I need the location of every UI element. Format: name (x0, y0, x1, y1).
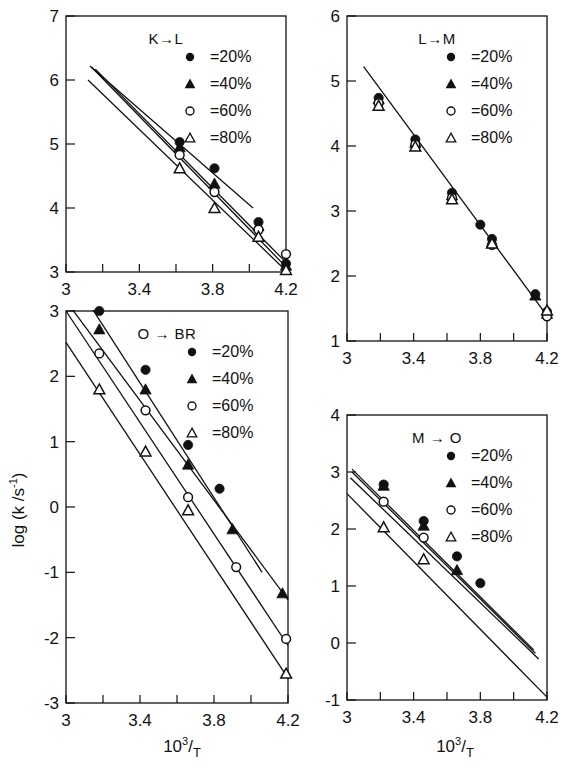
data-point-o-to-br-open-triangle-0 (94, 384, 105, 394)
legend-label-m-to-o-0: =20% (471, 447, 512, 464)
legend-label-o-to-br-2: =60% (212, 397, 253, 414)
data-point-k-to-l-open-triangle-1 (209, 203, 220, 213)
data-point-o-to-br-open-circle-4 (282, 635, 291, 644)
legend-marker-open-circle-m-to-o (447, 506, 455, 514)
y-tick-label-k-to-l-0: 3 (50, 263, 59, 282)
y-tick-label-k-to-l-3: 6 (50, 71, 59, 90)
data-point-m-to-o-filled-circle-2 (452, 552, 461, 561)
x-tick-label-o-to-br-6: 4.2 (276, 711, 300, 730)
x-tick-label-o-to-br-4: 3.8 (202, 711, 226, 730)
legend-marker-open-circle-o-to-br (188, 402, 196, 410)
x-tick-label-l-to-m-0: 3 (342, 349, 351, 368)
legend-marker-filled-circle-l-to-m (447, 53, 455, 61)
legend-label-o-to-br-0: =20% (212, 343, 253, 360)
y-tick-label-m-to-o-4: 3 (331, 463, 340, 482)
data-point-m-to-o-open-circle-1 (419, 533, 428, 542)
legend-label-m-to-o-3: =80% (471, 528, 512, 545)
y-axis-label: log (k /s-1) (7, 473, 28, 548)
legend-label-m-to-o-1: =40% (471, 474, 512, 491)
data-point-o-to-br-open-triangle-1 (140, 446, 151, 456)
y-tick-label-o-to-br-4: 1 (50, 433, 59, 452)
fit-line-m-to-o-open-triangle (347, 494, 547, 697)
plot-frame-o-to-br (66, 311, 288, 703)
legend-label-k-to-l-2: =60% (210, 102, 251, 119)
legend-label-o-to-br-3: =80% (212, 424, 253, 441)
x-tick-label-o-to-br-0: 3 (61, 711, 70, 730)
legend-marker-filled-triangle-o-to-br (187, 374, 198, 384)
data-point-o-to-br-filled-circle-2 (184, 440, 193, 449)
y-tick-label-o-to-br-2: -1 (44, 563, 59, 582)
x-tick-label-l-to-m-4: 3.8 (469, 349, 493, 368)
data-point-o-to-br-filled-triangle-3 (227, 524, 238, 534)
plot-frame-l-to-m (347, 16, 547, 341)
legend-label-l-to-m-2: =60% (471, 102, 512, 119)
legend-marker-open-triangle-m-to-o (446, 532, 456, 541)
legend-label-k-to-l-3: =80% (210, 129, 251, 146)
data-point-o-to-br-filled-triangle-4 (277, 588, 288, 598)
y-tick-label-l-to-m-3: 4 (331, 137, 340, 156)
x-axis-label-left: 103/T (163, 735, 201, 760)
y-tick-label-l-to-m-4: 5 (331, 72, 340, 91)
panel-title-k-to-l: K→L (149, 30, 184, 47)
panel-title-o-to-br: O → BR (138, 325, 197, 342)
legend-marker-filled-triangle-l-to-m (446, 79, 457, 89)
legend-marker-open-triangle-l-to-m (446, 133, 456, 142)
data-point-k-to-l-open-circle-1 (210, 188, 219, 197)
data-point-k-to-l-open-circle-0 (175, 150, 184, 159)
y-tick-label-l-to-m-0: 1 (331, 332, 340, 351)
x-tick-label-m-to-o-2: 3.4 (402, 708, 426, 727)
data-point-k-to-l-filled-circle-1 (210, 164, 219, 173)
panel-title-m-to-o: M → O (412, 429, 462, 446)
y-tick-label-m-to-o-2: 1 (331, 577, 340, 596)
y-tick-label-o-to-br-1: -2 (44, 629, 59, 648)
x-tick-label-k-to-l-0: 3 (61, 280, 70, 299)
y-tick-label-m-to-o-3: 2 (331, 520, 340, 539)
y-tick-label-m-to-o-1: 0 (331, 634, 340, 653)
data-point-o-to-br-open-circle-2 (184, 493, 193, 502)
figure-svg: 33.43.84.234567K→L=20%=40%=60%=80%33.43.… (0, 0, 568, 768)
data-point-o-to-br-open-circle-1 (141, 406, 150, 415)
legend-label-k-to-l-0: =20% (210, 48, 251, 65)
legend-marker-filled-circle-k-to-l (186, 53, 194, 61)
legend-marker-open-triangle-k-to-l (185, 133, 195, 142)
data-point-m-to-o-open-circle-0 (379, 497, 388, 506)
data-point-o-to-br-open-circle-0 (95, 349, 104, 358)
x-tick-label-k-to-l-2: 3.4 (128, 280, 152, 299)
data-point-k-to-l-open-circle-3 (282, 250, 291, 259)
legend-label-l-to-m-1: =40% (471, 75, 512, 92)
y-tick-label-o-to-br-6: 3 (50, 302, 59, 321)
x-axis-label-right: 103/T (436, 735, 474, 760)
legend-marker-filled-triangle-m-to-o (446, 478, 457, 488)
data-point-m-to-o-filled-circle-3 (476, 579, 485, 588)
legend-label-m-to-o-2: =60% (471, 501, 512, 518)
y-tick-label-o-to-br-5: 2 (50, 367, 59, 386)
legend-label-o-to-br-1: =40% (212, 370, 253, 387)
x-tick-label-k-to-l-4: 3.8 (201, 280, 225, 299)
data-point-o-to-br-filled-circle-0 (95, 306, 104, 315)
legend-label-l-to-m-3: =80% (471, 129, 512, 146)
y-tick-label-l-to-m-2: 3 (331, 202, 340, 221)
y-tick-label-m-to-o-5: 4 (331, 406, 340, 425)
data-point-o-to-br-open-circle-3 (232, 563, 241, 572)
x-tick-label-o-to-br-2: 3.4 (128, 711, 152, 730)
x-tick-label-l-to-m-6: 4.2 (535, 349, 559, 368)
x-tick-label-k-to-l-6: 4.2 (274, 280, 298, 299)
data-point-k-to-l-filled-triangle-1 (209, 178, 220, 188)
plot-frame-m-to-o (347, 415, 547, 700)
legend-marker-open-circle-k-to-l (186, 107, 194, 115)
panel-title-l-to-m: L→M (418, 30, 455, 47)
y-tick-label-o-to-br-3: 0 (50, 498, 59, 517)
legend-marker-open-triangle-o-to-br (187, 428, 197, 437)
x-tick-label-m-to-o-4: 3.8 (469, 708, 493, 727)
legend-marker-filled-circle-o-to-br (188, 348, 196, 356)
y-tick-label-l-to-m-1: 2 (331, 267, 340, 286)
legend-marker-filled-circle-m-to-o (447, 452, 455, 460)
legend-label-l-to-m-0: =20% (471, 48, 512, 65)
y-tick-label-l-to-m-5: 6 (331, 7, 340, 26)
data-point-m-to-o-open-triangle-1 (418, 554, 429, 564)
data-point-o-to-br-open-triangle-2 (183, 505, 194, 515)
y-tick-label-k-to-l-4: 7 (50, 7, 59, 26)
legend-marker-open-circle-l-to-m (447, 107, 455, 115)
x-tick-label-m-to-o-0: 3 (342, 708, 351, 727)
four-panel-arrhenius-figure: 33.43.84.234567K→L=20%=40%=60%=80%33.43.… (0, 0, 568, 768)
